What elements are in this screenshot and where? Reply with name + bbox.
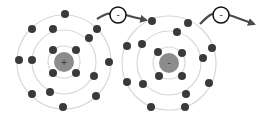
electron-dot <box>93 25 101 33</box>
electron-dot <box>155 72 163 80</box>
electron-dot <box>28 90 36 98</box>
electron-dot <box>85 34 93 42</box>
electron-dot <box>123 42 131 50</box>
electron-dot <box>199 54 207 62</box>
electron-dot <box>181 103 189 111</box>
curved-arrow-tail <box>200 14 213 24</box>
electron-charge-symbol: - <box>219 10 222 20</box>
electron-dot <box>138 40 146 48</box>
electron-dot <box>184 19 192 27</box>
atom-1: + <box>15 10 113 111</box>
electron-dot <box>154 48 162 56</box>
electron-dot <box>147 103 155 111</box>
atom-diagram: +- -- <box>0 0 261 119</box>
curved-arrow-icon <box>126 15 146 20</box>
atom-2: - <box>122 16 216 111</box>
electron-dot <box>208 44 216 52</box>
free-electron-2: - <box>200 7 254 24</box>
electron-dot <box>46 88 54 96</box>
electron-dot <box>59 103 67 111</box>
electron-dot <box>178 72 186 80</box>
electron-dot <box>148 17 156 25</box>
electron-dot <box>92 92 100 100</box>
nucleus-charge-symbol: + <box>60 57 68 67</box>
electron-dot <box>182 90 190 98</box>
electron-dot <box>72 46 80 54</box>
electron-charge-symbol: - <box>116 10 119 20</box>
electron-dot <box>49 25 57 33</box>
electron-dot <box>49 46 57 54</box>
electron-dot <box>123 78 131 86</box>
nucleus-charge-symbol: - <box>167 58 170 68</box>
electron-dot <box>173 28 181 36</box>
electron-dot <box>178 49 186 57</box>
electron-dot <box>28 56 36 64</box>
diagram-canvas: +- -- <box>0 0 261 119</box>
electron-dot <box>49 69 57 77</box>
electron-dot <box>105 58 113 66</box>
electron-dot <box>72 69 80 77</box>
curved-arrow-tail <box>97 14 110 19</box>
electron-dot <box>139 80 147 88</box>
electron-dot <box>90 72 98 80</box>
electron-dot <box>61 10 69 18</box>
electron-dot <box>28 25 36 33</box>
electron-dot <box>205 79 213 87</box>
electron-dot <box>15 56 23 64</box>
curved-arrow-icon <box>229 15 254 24</box>
free-electron-1: - <box>97 7 146 23</box>
